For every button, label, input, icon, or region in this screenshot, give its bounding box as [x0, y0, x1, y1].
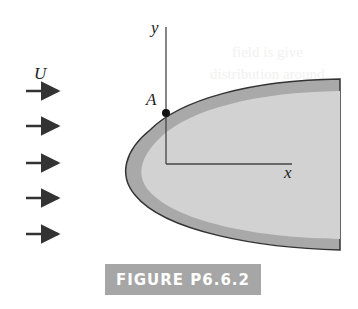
- flow-arrows: [26, 91, 58, 234]
- figure-diagram: [0, 0, 358, 309]
- point-a-label: A: [146, 90, 156, 110]
- point-a-marker: [162, 109, 170, 117]
- figure-caption: FIGURE P6.6.2: [105, 264, 261, 295]
- flow-velocity-label: U: [34, 64, 46, 84]
- y-axis-label: y: [151, 18, 159, 38]
- x-axis-label: x: [284, 163, 292, 183]
